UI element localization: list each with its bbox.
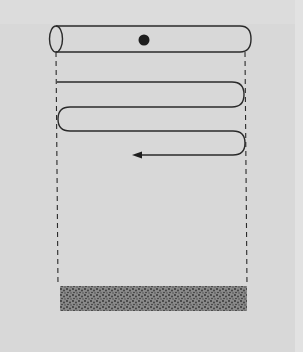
left-guide-line [56,52,58,286]
arrow-head-icon [132,152,142,159]
sediment-layer [60,286,247,311]
tube [50,26,252,52]
right-margin [295,0,303,352]
particle-dot [139,35,150,46]
serpentine-path [57,82,245,155]
diagram-svg [0,0,303,352]
right-guide-line [245,52,247,286]
diagram-canvas [0,0,303,352]
